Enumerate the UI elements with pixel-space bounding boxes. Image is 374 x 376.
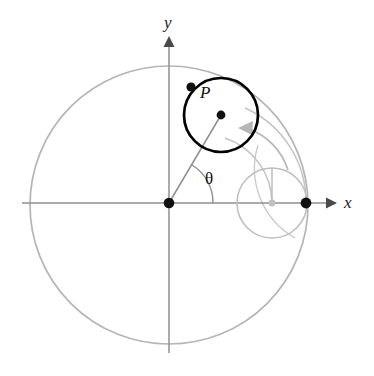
x-axis-label: x bbox=[344, 194, 352, 211]
x-axis-arrowhead bbox=[326, 198, 337, 209]
diagram-svg bbox=[0, 0, 374, 376]
rolling-motion-arrowhead bbox=[238, 121, 253, 135]
rolling-path-arc bbox=[254, 145, 295, 238]
radius-to-rolling-center bbox=[169, 115, 221, 203]
outer-construction-arc bbox=[245, 108, 306, 203]
inner-construction-arc bbox=[225, 138, 272, 203]
y-axis-label: y bbox=[164, 14, 172, 31]
start-point-on-x-axis-dot bbox=[301, 198, 312, 209]
origin-dot bbox=[164, 198, 175, 209]
tracing-point-p-label: P bbox=[200, 84, 210, 101]
figure-canvas: y x P θ bbox=[0, 0, 374, 376]
y-axis-arrowhead bbox=[164, 36, 175, 47]
rolling-circle-start-center-dot bbox=[269, 200, 276, 207]
theta-angle-label: θ bbox=[205, 170, 213, 187]
tracing-point-p-dot bbox=[186, 82, 195, 91]
rolling-circle-center-dot bbox=[217, 111, 226, 120]
